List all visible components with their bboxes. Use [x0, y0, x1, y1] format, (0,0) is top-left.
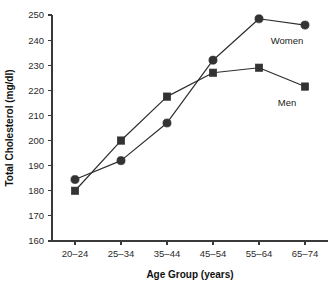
data-point-marker-circle — [209, 56, 217, 64]
y-tick-label: 250 — [28, 9, 44, 20]
x-tick-label: 25–34 — [108, 248, 134, 259]
y-tick-label: 210 — [28, 110, 44, 121]
data-point-marker-circle — [163, 119, 171, 127]
x-tick-label: 20–24 — [62, 248, 88, 259]
x-tick-label: 65–74 — [292, 248, 318, 259]
x-tick-label: 35–44 — [154, 248, 180, 259]
data-point-marker-square — [209, 69, 216, 76]
data-point-marker-circle — [71, 175, 79, 183]
cholesterol-line-chart: 160170180190200210220230240250 20–2425–3… — [0, 0, 334, 284]
y-tick-label: 220 — [28, 85, 44, 96]
y-tick-label: 240 — [28, 35, 44, 46]
x-tick-label: 45–54 — [200, 248, 226, 259]
data-point-marker-square — [71, 187, 78, 194]
data-point-marker-circle — [117, 157, 125, 165]
y-axis-title: Total Cholesterol (mg/dl) — [4, 69, 15, 186]
data-point-marker-square — [117, 137, 124, 144]
x-axis-group: 20–2425–3435–4445–5455–6465–74 — [52, 241, 328, 259]
data-point-marker-square — [163, 93, 170, 100]
series-annotation-women: Women — [271, 35, 304, 46]
data-point-marker-square — [255, 64, 262, 71]
y-tick-label: 200 — [28, 135, 44, 146]
y-tick-label: 160 — [28, 235, 44, 246]
y-axis-group: 160170180190200210220230240250 — [28, 9, 52, 246]
chart-canvas: 160170180190200210220230240250 20–2425–3… — [0, 0, 334, 284]
data-point-marker-circle — [255, 15, 263, 23]
annotation-group: WomenMen — [271, 35, 304, 109]
y-tick-label: 170 — [28, 210, 44, 221]
y-tick-label: 180 — [28, 185, 44, 196]
x-axis-title: Age Group (years) — [146, 269, 233, 280]
series-annotation-men: Men — [278, 97, 296, 108]
y-tick-label: 190 — [28, 160, 44, 171]
data-point-marker-square — [301, 83, 308, 90]
series-line-men — [75, 68, 305, 191]
y-tick-label: 230 — [28, 60, 44, 71]
data-point-marker-circle — [301, 21, 309, 29]
x-tick-label: 55–64 — [246, 248, 272, 259]
